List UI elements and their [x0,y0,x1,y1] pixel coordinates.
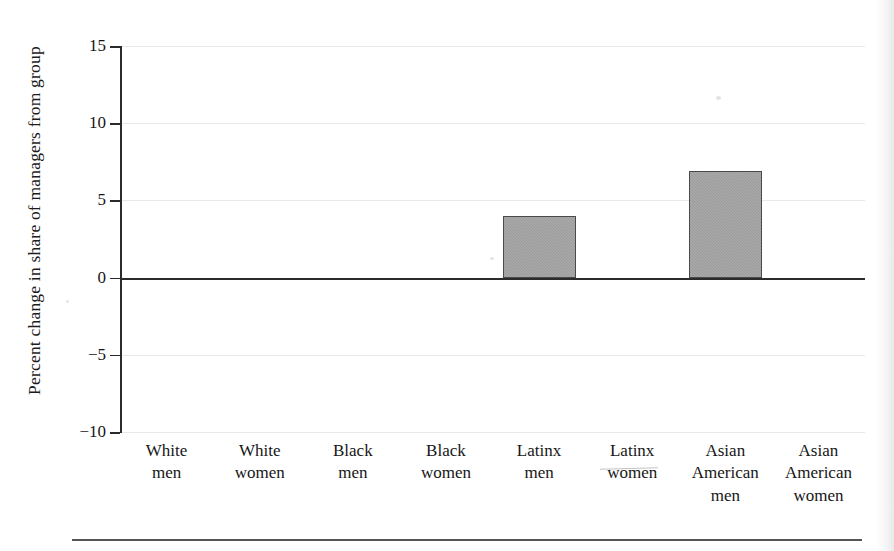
x-axis-category-label: Blackwomen [399,440,492,535]
gridline [120,355,865,356]
y-tick-mark [110,46,120,48]
y-tick-mark [110,123,120,125]
bar [689,171,762,278]
gridline [120,123,865,124]
y-axis-title-text: Percent change in share of managers from… [24,46,45,395]
plot-area [120,46,865,432]
y-axis-spine [120,46,122,433]
x-axis-category-label: AsianAmericanwomen [772,440,865,535]
y-tick-mark [110,432,120,434]
bar [503,216,576,278]
y-tick-mark [110,355,120,357]
y-axis-title: Percent change in share of managers from… [16,0,52,440]
y-tick-mark [110,278,120,280]
gridline [120,432,865,433]
y-tick-label: 15 [60,37,106,54]
x-axis-category-label: Whitewomen [213,440,306,535]
y-tick-label: −10 [60,423,106,440]
y-tick-label: 0 [60,269,106,286]
scan-artifact-speck [490,257,494,260]
y-tick-label: −5 [60,346,106,363]
y-tick-label: 5 [60,191,106,208]
scan-artifact-speck [66,300,69,303]
x-axis-labels: WhitemenWhitewomenBlackmenBlackwomenLati… [120,440,865,535]
zero-baseline [120,278,865,280]
x-axis-category-label: AsianAmericanmen [679,440,772,535]
y-tick-mark [110,200,120,202]
x-axis-category-label: Whitemen [120,440,213,535]
y-tick-label: 10 [60,114,106,131]
bar-chart-figure: Percent change in share of managers from… [0,0,894,551]
scan-artifact-speck [716,96,721,100]
x-axis-category-label: Blackmen [306,440,399,535]
x-axis-category-label: Latinxwomen [586,440,679,535]
x-axis-category-label: Latinxmen [493,440,586,535]
figure-bottom-rule [72,539,862,541]
gridline [120,46,865,47]
